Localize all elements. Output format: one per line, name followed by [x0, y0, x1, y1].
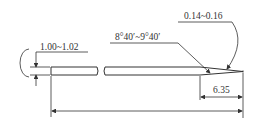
tip-diameter-leader: [178, 22, 238, 69]
diameter-label: 1.00~1.02: [40, 42, 79, 52]
taper-angle-leader: [110, 43, 210, 73]
overall-length-dimension: [51, 76, 242, 117]
pin-body-right: [104, 67, 243, 75]
technical-drawing: 1.00~1.02 8°40′~9°40′ 0.14~0.16 6.35: [0, 0, 257, 131]
pin-body-left: [51, 67, 98, 75]
taper-length-label: 6.35: [213, 85, 230, 95]
taper-angle-label: 8°40′~9°40′: [115, 32, 160, 42]
tip-diameter-label: 0.14~0.16: [184, 11, 223, 21]
